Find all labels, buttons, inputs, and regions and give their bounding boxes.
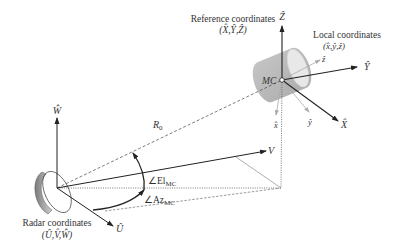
w-axis-label: Ŵ <box>53 104 63 116</box>
x-axis-label: X̂ <box>340 118 348 130</box>
mc-origin-point <box>280 78 285 83</box>
elevation-angle-label: ∠ElMC <box>148 176 177 188</box>
target-cylinder <box>253 46 314 102</box>
azimuth-arc <box>93 190 144 210</box>
x-axis-arrow <box>282 80 338 121</box>
v-axis-label: V <box>268 145 276 156</box>
elevation-arc <box>133 153 144 190</box>
reference-coordinates-axes: (X̂,Ŷ,Ẑ) <box>219 23 246 36</box>
local-x-label: x̂ <box>273 120 278 130</box>
local-coordinates-axes: (x̂,ŷ,ẑ) <box>323 41 345 51</box>
range-line <box>57 80 282 188</box>
range-label: R0 <box>152 119 163 132</box>
diagram-svg: Reference coordinates (X̂,Ŷ,Ẑ) Ẑ Local c… <box>0 0 396 252</box>
radar-coordinates-axes: (Û,V̂,Ŵ) <box>42 228 72 241</box>
v-projection-line <box>236 157 281 188</box>
local-z-label: ẑ <box>321 54 326 64</box>
u-axis-label: Û <box>116 223 124 234</box>
target-label: MC <box>261 76 277 86</box>
z-axis-label: Ẑ <box>279 11 285 22</box>
radar-dish-icon <box>35 167 77 217</box>
local-coordinates-title: Local coordinates <box>313 30 381 40</box>
radar-coordinates-title: Radar coordinates <box>23 218 92 228</box>
y-axis-label: Ŷ <box>364 61 371 72</box>
reference-coordinates-title: Reference coordinates <box>191 14 276 24</box>
radar-geometry-diagram: Reference coordinates (X̂,Ŷ,Ẑ) Ẑ Local c… <box>0 0 396 252</box>
local-y-label: ŷ <box>307 117 312 127</box>
